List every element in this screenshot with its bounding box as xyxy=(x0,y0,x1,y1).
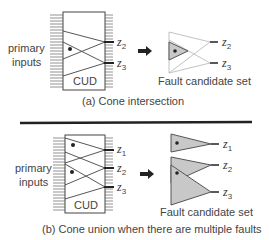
panel-b: primary inputs xyxy=(15,134,262,235)
output-pins xyxy=(105,138,113,210)
cone-diagram: primary inputs xyxy=(0,0,269,240)
caption-a: (a) Cone intersection xyxy=(82,95,184,107)
result-z3-label: z3 xyxy=(222,185,233,201)
fault-candidate-set-label: Fault candidate set xyxy=(158,75,251,87)
primary-inputs-label-line1: primary xyxy=(8,42,45,54)
output-z1-label: z1 xyxy=(116,142,127,158)
fault-dot xyxy=(70,170,74,174)
fault-dot xyxy=(175,171,179,175)
output-z3-label: z3 xyxy=(116,56,127,72)
fault-candidate-set-b xyxy=(171,134,219,205)
result-z1-label: z1 xyxy=(222,137,233,153)
primary-inputs-label-line2: inputs xyxy=(19,176,49,188)
result-z3-label: z3 xyxy=(221,56,232,72)
fault-dot xyxy=(68,47,72,51)
fault-dot xyxy=(173,49,177,53)
arrow-right-icon xyxy=(140,169,154,179)
output-z2-label: z2 xyxy=(116,161,127,177)
output-pins xyxy=(105,15,113,87)
result-z2-label: z2 xyxy=(221,35,232,51)
input-pins xyxy=(53,138,65,210)
panel-a: primary inputs xyxy=(8,12,251,107)
arrow-right-icon xyxy=(138,46,152,56)
fault-dot xyxy=(175,141,179,145)
primary-inputs-label-line2: inputs xyxy=(12,56,42,68)
cud-label: CUD xyxy=(73,75,97,87)
primary-inputs-label-line1: primary xyxy=(15,162,52,174)
output-z2-label: z2 xyxy=(116,35,127,51)
result-z2-label: z2 xyxy=(222,158,233,174)
intersection-cone xyxy=(169,42,188,60)
cud-label: CUD xyxy=(74,199,98,211)
caption-b: (b) Cone union when there are multiple f… xyxy=(42,223,262,235)
output-z3-label: z3 xyxy=(116,180,127,196)
input-pins xyxy=(50,15,63,87)
section-divider xyxy=(20,122,252,123)
fault-candidate-set-label: Fault candidate set xyxy=(160,206,253,218)
fault-candidate-set-a xyxy=(169,32,218,73)
fault-dot xyxy=(71,143,75,147)
